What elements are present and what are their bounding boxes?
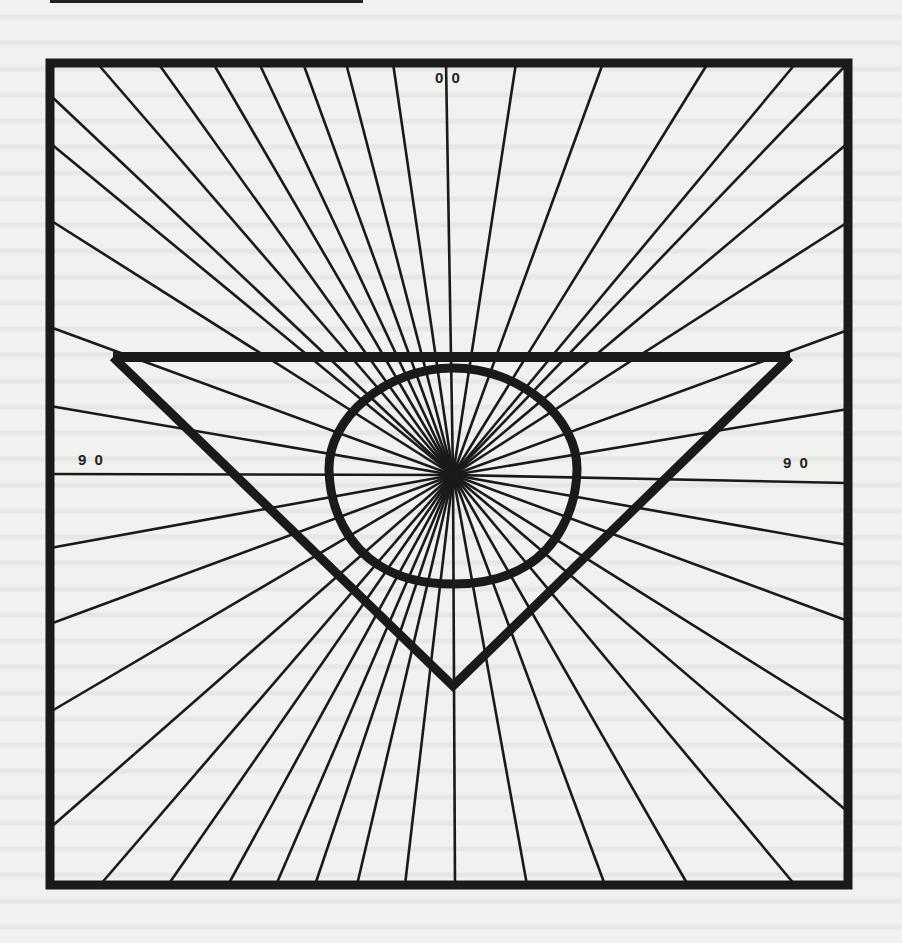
ray-line-bottom: [100, 475, 453, 885]
ray-line-right: [453, 475, 848, 545]
label-right-ninety: 9 0: [783, 454, 810, 471]
ray-line-right: [453, 222, 848, 475]
ray-line-bottom: [228, 475, 453, 885]
ray-line-right: [453, 475, 848, 483]
ray-line-left: [50, 95, 453, 475]
ray-line-left: [50, 475, 453, 624]
ray-line-left: [50, 474, 453, 475]
ray-line-top: [446, 63, 453, 475]
label-top-zero: 0 0: [435, 69, 462, 86]
label-left-ninety: 9 0: [78, 451, 105, 468]
ray-line-top: [453, 63, 848, 475]
ray-line-top: [213, 63, 453, 475]
center-hub: [447, 469, 459, 481]
radial-illusion-diagram: [0, 0, 902, 943]
ray-line-bottom: [453, 475, 688, 885]
ray-line-right: [453, 475, 848, 812]
ray-line-bottom: [168, 475, 453, 885]
ray-line-bottom: [453, 475, 795, 885]
ray-line-top: [453, 63, 516, 475]
ray-line-bottom: [357, 475, 453, 885]
ray-line-bottom: [453, 475, 605, 885]
